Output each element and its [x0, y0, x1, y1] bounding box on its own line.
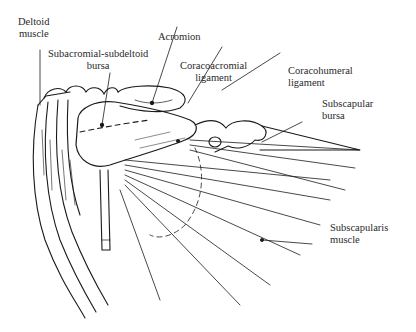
label-line: Subacromial-subdeltoid — [48, 48, 148, 60]
label-line: ligament — [288, 77, 353, 89]
label-line: Subscapular — [322, 98, 373, 110]
coracoid-drawing — [195, 121, 360, 152]
label-line: muscle — [330, 234, 388, 246]
label-line: Subscapularis — [330, 222, 388, 234]
subacromial-bursa-drawing — [76, 102, 196, 167]
label-subacromial-bursa: Subacromial-subdeltoid bursa — [48, 48, 148, 72]
label-line: muscle — [18, 28, 50, 40]
biceps-tendon-drawing — [100, 170, 110, 250]
label-subscapular-bursa: Subscapular bursa — [322, 98, 373, 122]
label-line: bursa — [322, 110, 373, 122]
label-line: Coracohumeral — [288, 65, 353, 77]
label-line: bursa — [48, 60, 148, 72]
label-coracoacromial-ligament: Coracoacromial ligament — [180, 60, 247, 84]
label-subscapularis-muscle: Subscapularis muscle — [330, 222, 388, 246]
label-line: Deltoid — [18, 16, 50, 28]
acromion-drawing — [44, 86, 185, 112]
label-coracohumeral-ligament: Coracohumeral ligament — [288, 65, 353, 89]
label-deltoid-muscle: Deltoid muscle — [18, 16, 50, 40]
label-line: Coracoacromial — [180, 60, 247, 72]
label-line: Acromion — [158, 31, 201, 43]
subscapularis-muscle-drawing — [120, 139, 360, 305]
label-acromion: Acromion — [158, 31, 201, 43]
label-line: ligament — [180, 72, 247, 84]
deltoid-muscle-drawing — [33, 92, 108, 318]
